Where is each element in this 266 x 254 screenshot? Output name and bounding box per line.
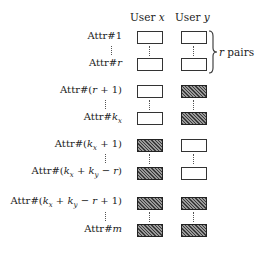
brace-label-r-pairs: r pairs bbox=[219, 46, 254, 58]
row-label-attr-m: Attr#m bbox=[84, 223, 122, 234]
cell-ellipsis bbox=[149, 46, 152, 56]
header-text: User bbox=[175, 11, 204, 23]
row-label-attr-1: Attr#1 bbox=[87, 30, 122, 41]
cell-x-attr-kx-ky-minus-r-plus-1 bbox=[137, 197, 163, 210]
cell-ellipsis bbox=[193, 212, 196, 222]
right-brace-icon bbox=[208, 30, 218, 74]
cell-y-attr-kx-ky-minus-r bbox=[181, 167, 207, 180]
cell-y-attr-1 bbox=[181, 31, 207, 44]
cell-ellipsis bbox=[149, 100, 152, 110]
cell-y-attr-kx-ky-minus-r-plus-1 bbox=[181, 197, 207, 210]
column-header-user-y: User y bbox=[175, 11, 210, 23]
cell-ellipsis bbox=[149, 212, 152, 222]
row-label-attr-kx: Attr#kx bbox=[84, 111, 122, 125]
header-var: x bbox=[159, 11, 165, 23]
cell-ellipsis bbox=[149, 154, 152, 164]
cell-x-attr-r-plus-1 bbox=[137, 85, 163, 98]
label-ellipsis bbox=[105, 154, 108, 163]
brace-text: pairs bbox=[224, 46, 254, 58]
cell-x-attr-kx-ky-minus-r bbox=[137, 167, 163, 180]
cell-y-attr-kx-plus-1 bbox=[181, 139, 207, 152]
cell-x-attr-r bbox=[137, 58, 163, 71]
row-label-attr-kx-plus-1: Attr#(kx + 1) bbox=[55, 138, 122, 152]
row-label-attr-r: Attr#r bbox=[89, 57, 122, 68]
header-text: User bbox=[130, 11, 159, 23]
header-var: y bbox=[204, 11, 210, 23]
cell-y-attr-m bbox=[181, 224, 207, 237]
cell-y-attr-r bbox=[181, 58, 207, 71]
cell-y-attr-r-plus-1 bbox=[181, 85, 207, 98]
cell-x-attr-m bbox=[137, 224, 163, 237]
cell-x-attr-kx bbox=[137, 112, 163, 125]
cell-y-attr-kx bbox=[181, 112, 207, 125]
row-label-attr-kx-ky-minus-r: Attr#(kx + ky − r) bbox=[32, 165, 122, 179]
cell-x-attr-1 bbox=[137, 31, 163, 44]
label-ellipsis bbox=[105, 100, 108, 109]
label-ellipsis bbox=[111, 46, 114, 55]
label-ellipsis bbox=[105, 212, 108, 221]
cell-ellipsis bbox=[193, 100, 196, 110]
cell-x-attr-kx-plus-1 bbox=[137, 139, 163, 152]
row-label-attr-r-plus-1: Attr#(r + 1) bbox=[60, 84, 122, 95]
cell-ellipsis bbox=[193, 154, 196, 164]
column-header-user-x: User x bbox=[130, 11, 165, 23]
row-label-attr-kx-ky-minus-r-plus-1: Attr#(kx + ky − r + 1) bbox=[11, 195, 122, 209]
cell-ellipsis bbox=[193, 46, 196, 56]
